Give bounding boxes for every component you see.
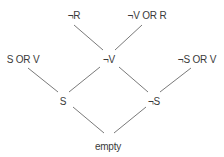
node-not-r: ¬R: [68, 10, 81, 22]
edge-line: [73, 107, 104, 133]
node-s-or-v: S OR V: [7, 54, 40, 66]
edge-line: [74, 25, 103, 50]
node-empty: empty: [95, 141, 121, 153]
edge-line: [114, 107, 146, 133]
resolution-diagram: ¬R ¬V OR R S OR V ¬V ¬S OR V S ¬S empty: [0, 0, 224, 157]
edge-line: [115, 25, 142, 50]
node-not-s-or-v: ¬S OR V: [178, 54, 216, 66]
edge-layer: [0, 0, 224, 157]
node-not-s: ¬S: [148, 96, 160, 108]
edge-line: [160, 68, 191, 92]
edge-line: [28, 68, 58, 92]
edge-line: [119, 67, 148, 92]
node-not-v-or-r: ¬V OR R: [128, 10, 167, 22]
node-s: S: [60, 96, 66, 108]
node-not-v: ¬V: [103, 54, 115, 66]
edge-line: [69, 67, 100, 92]
